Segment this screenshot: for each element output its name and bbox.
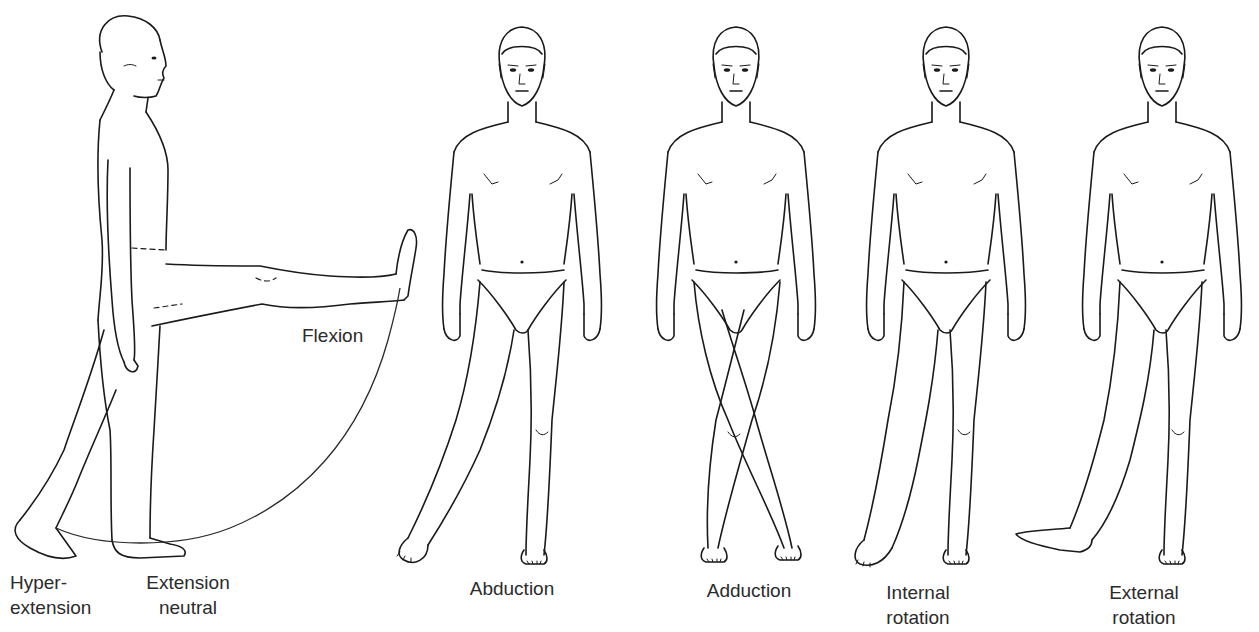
figure-lateral-flexion-extension xyxy=(15,16,416,559)
hip-motion-diagram: Flexion Hyper- extension Extension neutr… xyxy=(0,0,1259,632)
figure-adduction xyxy=(657,27,816,562)
label-adduction: Adduction xyxy=(697,578,801,603)
label-extension-neutral: Extension neutral xyxy=(140,570,236,620)
label-hyperextension: Hyper- extension xyxy=(10,570,91,620)
label-flexion: Flexion xyxy=(302,323,363,348)
figure-abduction xyxy=(397,27,602,564)
figure-external-rotation xyxy=(1016,27,1242,564)
figure-internal-rotation xyxy=(855,27,1025,567)
label-abduction: Abduction xyxy=(460,576,564,601)
label-internal-rotation: Internal rotation xyxy=(870,580,966,630)
label-external-rotation: External rotation xyxy=(1096,580,1192,630)
